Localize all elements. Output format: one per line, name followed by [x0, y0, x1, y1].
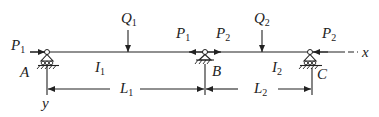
load-q1-label: Q1	[121, 10, 137, 28]
load-p2-mid-label: P2	[215, 25, 230, 43]
span-1-inertia-label: I1	[94, 59, 105, 77]
y-axis-label: y	[40, 95, 49, 111]
load-p2-right-label: P2	[321, 25, 336, 43]
load-q2-label: Q2	[254, 10, 270, 28]
beam-diagram: x A y B	[0, 0, 379, 117]
dimension-l1-label: L1	[119, 80, 133, 98]
support-b-label: B	[212, 63, 221, 79]
load-p1-left-label: P1	[10, 37, 25, 55]
load-p1-mid-label: P1	[175, 25, 190, 43]
x-axis-label: x	[361, 44, 369, 60]
dimension-l2-label: L2	[253, 80, 267, 98]
span-2-inertia-label: I2	[271, 59, 282, 77]
support-a-label: A	[19, 64, 30, 80]
support-c-label: C	[317, 66, 328, 82]
